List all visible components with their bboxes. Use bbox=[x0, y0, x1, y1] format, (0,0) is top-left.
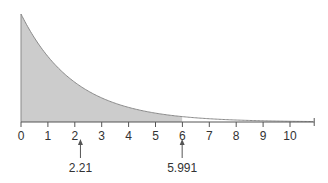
chart-svg: 0123456789102.215.991 bbox=[0, 0, 328, 183]
x-tick-label: 9 bbox=[260, 129, 267, 143]
x-tick-label: 10 bbox=[283, 129, 297, 143]
x-tick-label: 3 bbox=[98, 129, 105, 143]
chi-square-chart: 0123456789102.215.991 bbox=[0, 0, 328, 183]
annotation-label: 5.991 bbox=[167, 161, 197, 175]
x-tick-label: 8 bbox=[233, 129, 240, 143]
x-tick-label: 1 bbox=[45, 129, 52, 143]
x-tick-label: 7 bbox=[206, 129, 213, 143]
annotation-label: 2.21 bbox=[69, 161, 93, 175]
x-tick-label: 5 bbox=[152, 129, 159, 143]
arrow-up-icon bbox=[78, 139, 83, 145]
x-tick-label: 2 bbox=[71, 129, 78, 143]
shaded-area bbox=[21, 14, 182, 122]
x-tick-label: 0 bbox=[18, 129, 25, 143]
x-tick-label: 4 bbox=[125, 129, 132, 143]
